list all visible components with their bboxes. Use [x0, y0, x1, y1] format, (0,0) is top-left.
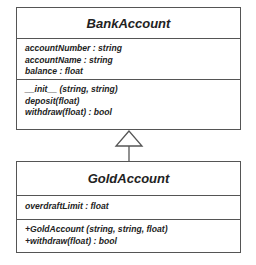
operations-section: +GoldAccount (string, string, float) +wi…	[17, 220, 240, 252]
operation: +withdraw(float) : bool	[25, 236, 240, 248]
generalization-triangle-icon	[116, 131, 142, 146]
attributes-section: overdraftLimit : float	[17, 196, 240, 220]
attribute: overdraftLimit : float	[25, 201, 240, 213]
class-name: GoldAccount	[88, 171, 170, 186]
operation: +GoldAccount (string, string, float)	[25, 224, 240, 236]
class-name-section: GoldAccount	[17, 162, 240, 196]
class-goldaccount: GoldAccount overdraftLimit : float +Gold…	[16, 161, 241, 253]
